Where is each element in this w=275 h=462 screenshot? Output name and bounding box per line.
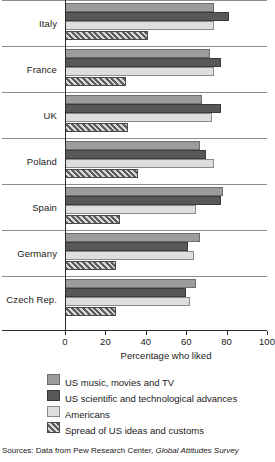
row-separator bbox=[2, 276, 267, 277]
chart-row: Poland bbox=[0, 138, 275, 184]
bar-spain-series-0 bbox=[65, 187, 223, 196]
x-tick bbox=[227, 331, 228, 335]
bar-france-series-2 bbox=[65, 67, 214, 76]
category-label: Czech Rep. bbox=[0, 294, 57, 305]
bar-czech-rep--series-1 bbox=[65, 288, 186, 297]
legend-label: Americans bbox=[65, 409, 110, 420]
category-label: Spain bbox=[0, 202, 57, 213]
x-axis-title: Percentage who liked bbox=[65, 350, 267, 361]
bar-poland-series-3 bbox=[65, 169, 138, 178]
bar-germany-series-2 bbox=[65, 251, 194, 260]
bar-group bbox=[65, 49, 267, 89]
legend-label: US scientific and technological advances bbox=[65, 393, 237, 404]
bar-france-series-3 bbox=[65, 77, 126, 86]
bar-germany-series-0 bbox=[65, 233, 200, 242]
source-italic: Global Attitudes Survey bbox=[155, 446, 238, 455]
row-separator bbox=[2, 184, 267, 185]
bar-group bbox=[65, 95, 267, 135]
x-tick bbox=[65, 331, 66, 335]
bar-group bbox=[65, 233, 267, 273]
bar-poland-series-1 bbox=[65, 150, 206, 159]
legend-item[interactable]: US scientific and technological advances bbox=[0, 388, 275, 404]
bar-group bbox=[65, 141, 267, 181]
bar-spain-series-2 bbox=[65, 205, 196, 214]
bar-poland-series-2 bbox=[65, 159, 214, 168]
x-tick-label: 60 bbox=[171, 336, 201, 347]
legend-item[interactable]: Americans bbox=[0, 404, 275, 420]
plot-area: ItalyFranceUKPolandSpainGermanyCzech Rep… bbox=[0, 0, 275, 330]
chart-legend: US music, movies and TVUS scientific and… bbox=[0, 372, 275, 436]
bar-italy-series-1 bbox=[65, 12, 229, 21]
legend-item[interactable]: US music, movies and TV bbox=[0, 372, 275, 388]
bar-uk-series-2 bbox=[65, 113, 212, 122]
x-tick bbox=[267, 331, 268, 335]
legend-label: Spread of US ideas and customs bbox=[65, 425, 204, 436]
legend-swatch-icon bbox=[47, 374, 60, 385]
bar-group bbox=[65, 279, 267, 319]
x-tick bbox=[105, 331, 106, 335]
legend-item[interactable]: Spread of US ideas and customs bbox=[0, 420, 275, 436]
chart-container: ItalyFranceUKPolandSpainGermanyCzech Rep… bbox=[0, 0, 275, 462]
bar-uk-series-3 bbox=[65, 123, 128, 132]
row-separator bbox=[2, 0, 267, 1]
x-tick-label: 100 bbox=[252, 336, 275, 347]
bar-france-series-1 bbox=[65, 58, 221, 67]
category-label: Italy bbox=[0, 18, 57, 29]
x-tick-label: 40 bbox=[131, 336, 161, 347]
chart-row: Czech Rep. bbox=[0, 276, 275, 322]
bar-france-series-0 bbox=[65, 49, 210, 58]
row-separator bbox=[2, 138, 267, 139]
bar-uk-series-1 bbox=[65, 104, 221, 113]
legend-swatch-icon bbox=[47, 390, 60, 401]
bar-italy-series-2 bbox=[65, 21, 214, 30]
bar-czech-rep--series-3 bbox=[65, 307, 116, 316]
category-label: France bbox=[0, 64, 57, 75]
bar-group bbox=[65, 3, 267, 43]
bar-spain-series-1 bbox=[65, 196, 221, 205]
bar-germany-series-3 bbox=[65, 261, 116, 270]
bar-germany-series-1 bbox=[65, 242, 188, 251]
chart-row: Spain bbox=[0, 184, 275, 230]
bar-italy-series-3 bbox=[65, 31, 148, 40]
x-tick-label: 20 bbox=[90, 336, 120, 347]
row-separator bbox=[2, 92, 267, 93]
y-axis-line bbox=[65, 0, 66, 330]
legend-label: US music, movies and TV bbox=[65, 377, 174, 388]
x-tick bbox=[146, 331, 147, 335]
x-tick bbox=[186, 331, 187, 335]
chart-row: Italy bbox=[0, 0, 275, 46]
source-note: Sources: Data from Pew Research Center, … bbox=[2, 446, 275, 455]
x-tick-label: 80 bbox=[212, 336, 242, 347]
chart-row: France bbox=[0, 46, 275, 92]
bar-uk-series-0 bbox=[65, 95, 202, 104]
bar-czech-rep--series-2 bbox=[65, 297, 190, 306]
row-separator bbox=[2, 46, 267, 47]
chart-row: Germany bbox=[0, 230, 275, 276]
bar-group bbox=[65, 187, 267, 227]
chart-row: UK bbox=[0, 92, 275, 138]
source-prefix: Sources: Data from Pew Research Center, bbox=[2, 446, 153, 455]
bar-italy-series-0 bbox=[65, 3, 214, 12]
category-label: UK bbox=[0, 110, 57, 121]
x-tick-label: 0 bbox=[50, 336, 80, 347]
legend-swatch-icon bbox=[47, 422, 60, 433]
category-label: Poland bbox=[0, 156, 57, 167]
legend-swatch-icon bbox=[47, 406, 60, 417]
bar-czech-rep--series-0 bbox=[65, 279, 196, 288]
row-separator bbox=[2, 230, 267, 231]
bar-poland-series-0 bbox=[65, 141, 200, 150]
bar-spain-series-3 bbox=[65, 215, 120, 224]
category-label: Germany bbox=[0, 248, 57, 259]
